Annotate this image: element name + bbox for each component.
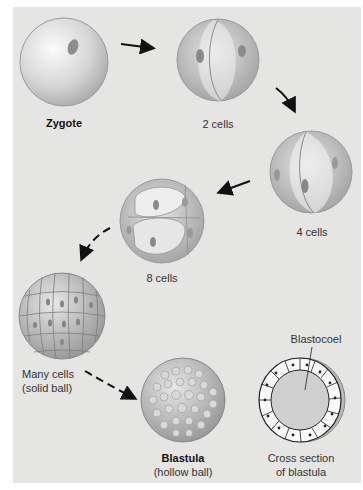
dashed-arrow-icon — [82, 228, 110, 258]
embryo-diagram — [0, 0, 363, 490]
morula-solid-ball — [19, 273, 105, 359]
label-blastula-sub: (hollow ball) — [145, 466, 221, 479]
eight-cell-embryo — [120, 179, 204, 263]
label-cross-section-line1: Cross section — [256, 452, 346, 465]
label-morula-line1: Many cells — [22, 368, 74, 381]
four-cell-embryo — [270, 131, 352, 213]
label-two-cells: 2 cells — [190, 118, 246, 131]
label-zygote: Zygote — [33, 117, 95, 130]
label-morula-line2: (solid ball) — [22, 382, 72, 395]
label-blastula: Blastula — [145, 452, 221, 465]
blastula-cross-section — [259, 347, 345, 442]
arrow-icon — [276, 88, 294, 110]
label-cross-section-line2: of blastula — [256, 466, 346, 479]
arrow-icon — [121, 44, 152, 48]
zygote-cell — [20, 18, 108, 106]
blastula-hollow-ball — [141, 358, 225, 442]
label-eight-cells: 8 cells — [134, 272, 190, 285]
dashed-arrow-icon — [85, 371, 134, 398]
two-cell-embryo — [177, 19, 259, 101]
label-blastocoel: Blastocoel — [283, 333, 349, 346]
label-four-cells: 4 cells — [284, 226, 340, 239]
arrow-icon — [220, 181, 250, 192]
